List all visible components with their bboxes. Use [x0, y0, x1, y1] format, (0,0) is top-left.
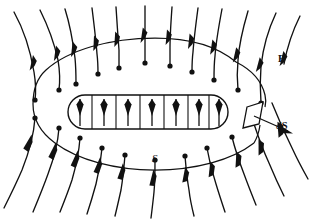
field-line-origin-dot [204, 145, 209, 150]
field-line [87, 145, 105, 214]
field-line-terminal-dot [32, 97, 37, 102]
field-line-terminal-dot [235, 87, 240, 92]
field-line-origin-dot [99, 145, 104, 150]
field-line-terminal-dot [56, 87, 61, 92]
area-element-label: dS [276, 120, 288, 131]
field-line [115, 152, 128, 216]
field-line [33, 125, 62, 212]
field-line-terminal-dot [211, 77, 216, 82]
field-line-origin-dot [229, 134, 234, 139]
field-line-origin-dot [122, 152, 127, 157]
field-line [14, 12, 38, 103]
field-line [188, 8, 198, 75]
field-line [272, 103, 308, 179]
field-line-origin-dot [56, 125, 61, 130]
field-line [210, 9, 222, 83]
surface-label-S: S [152, 152, 158, 164]
field-line [166, 7, 173, 69]
field-line-origin-dot [77, 135, 82, 140]
field-line [182, 153, 194, 216]
field-line [204, 145, 225, 212]
field-line [40, 10, 62, 93]
stadium-interior-arrow [148, 99, 155, 126]
inner-stadium-slab [68, 95, 228, 129]
field-line-terminal-dot [189, 69, 194, 74]
stadium-interior-arrow [215, 99, 222, 126]
field-line-origin-dot [32, 115, 37, 120]
field-line-terminal-dot [142, 60, 147, 65]
field-line [92, 8, 101, 77]
field-label-B: B [278, 53, 285, 64]
stadium-interior-arrow [76, 99, 83, 126]
field-line-terminal-dot [116, 65, 121, 70]
field-line [65, 9, 79, 87]
area-element-patch [243, 102, 263, 128]
field-line-terminal-dot [95, 71, 100, 76]
stadium-interior-arrow [195, 99, 202, 126]
field-line-origin-dot [182, 153, 187, 158]
field-line [141, 6, 148, 66]
field-line [114, 7, 121, 71]
stadium-interior-arrow [100, 99, 107, 126]
figure-root: B dS S [0, 0, 311, 220]
field-line [256, 13, 276, 106]
field-line [149, 157, 157, 218]
field-line-terminal-dot [167, 63, 172, 68]
field-line [60, 135, 83, 212]
field-line [4, 115, 38, 208]
magnetic-flux-diagram: B dS S [0, 0, 311, 220]
area-element-label-S: S [282, 120, 288, 131]
field-line [233, 11, 248, 93]
field-line-terminal-dot [73, 81, 78, 86]
stadium-interior-arrow [124, 99, 131, 126]
field-lines-above [14, 6, 300, 106]
stadium-interior-arrow [172, 99, 179, 126]
